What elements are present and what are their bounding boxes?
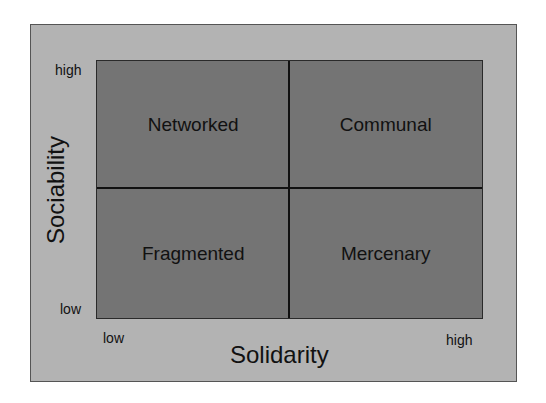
quadrant-communal: Communal xyxy=(290,61,483,190)
quadrant-label: Communal xyxy=(340,114,432,136)
quadrant-mercenary: Mercenary xyxy=(290,190,483,319)
quadrant-label: Fragmented xyxy=(142,243,244,265)
quadrant-fragmented: Fragmented xyxy=(97,190,290,319)
quadrant-grid: Networked Communal Fragmented Mercenary xyxy=(96,60,483,319)
quadrant-networked: Networked xyxy=(97,61,290,190)
y-axis-high-label: high xyxy=(55,62,81,78)
y-axis-low-label: low xyxy=(60,301,81,317)
x-axis-low-label: low xyxy=(103,330,124,346)
y-axis-title: Sociability xyxy=(42,136,70,244)
horizontal-divider xyxy=(97,187,482,189)
x-axis-title: Solidarity xyxy=(230,341,329,369)
quadrant-label: Mercenary xyxy=(341,243,431,265)
vertical-divider xyxy=(288,61,290,318)
quadrant-label: Networked xyxy=(148,114,239,136)
x-axis-high-label: high xyxy=(446,332,472,348)
